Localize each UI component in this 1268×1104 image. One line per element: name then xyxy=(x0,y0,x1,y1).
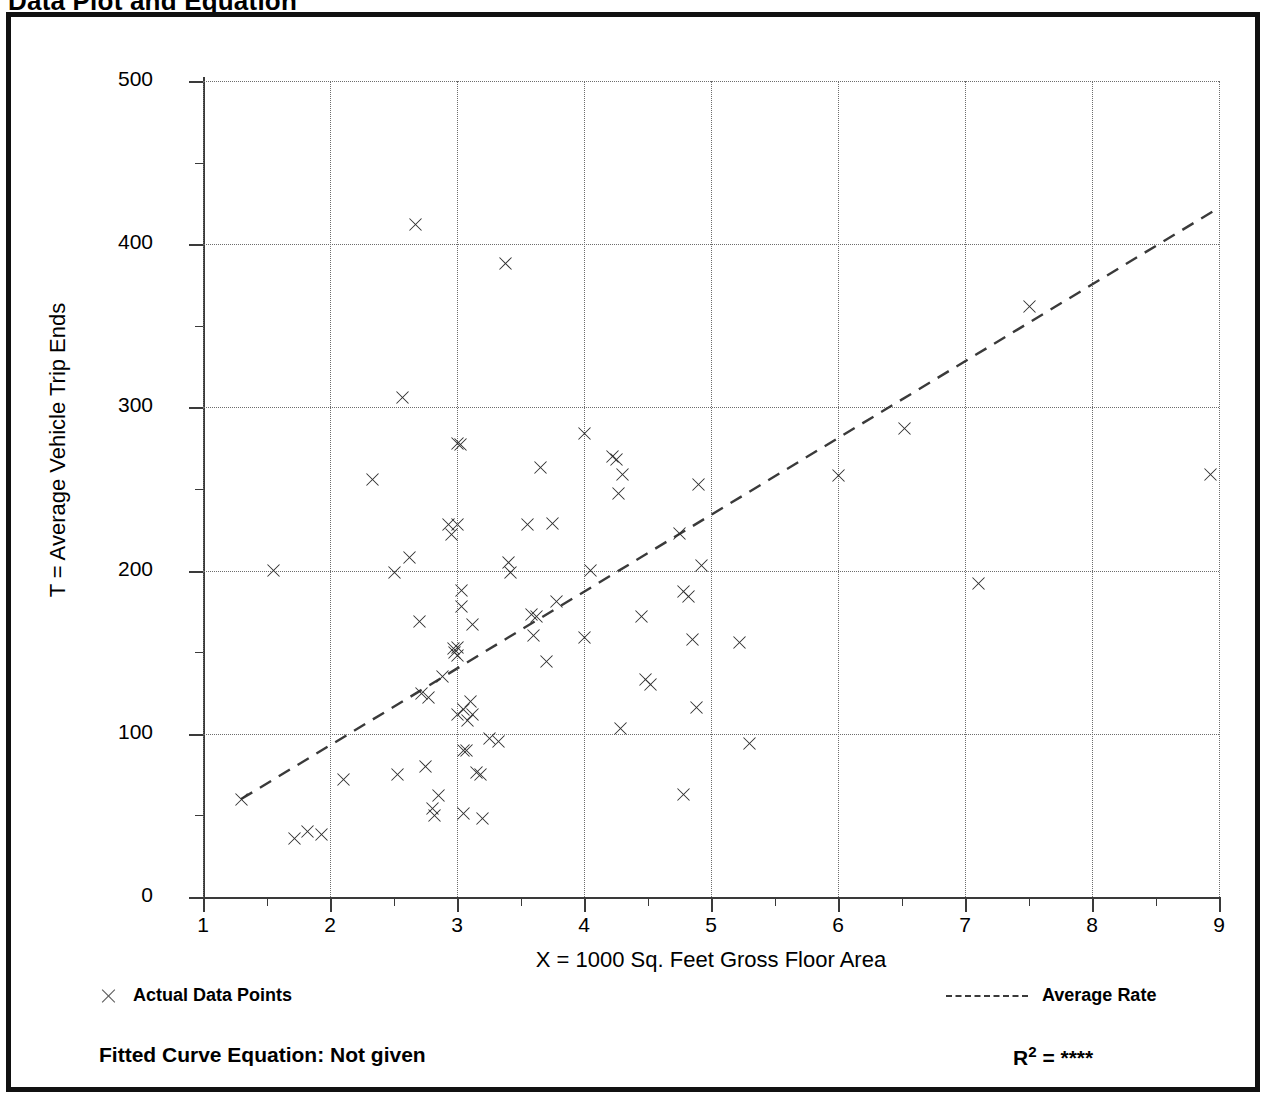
x-axis-tick-label: 6 xyxy=(832,913,844,937)
data-point xyxy=(610,485,627,502)
data-point xyxy=(1020,298,1037,315)
legend-label-average-rate: Average Rate xyxy=(1042,985,1156,1006)
data-point xyxy=(1202,466,1219,483)
data-point xyxy=(407,216,424,233)
x-axis-minor-tick xyxy=(775,897,776,906)
data-point xyxy=(690,476,707,493)
r-squared-exponent: 2 xyxy=(1028,1043,1036,1060)
y-axis-tick xyxy=(189,734,204,736)
data-point xyxy=(730,634,747,651)
figure-frame: 0100200300400500123456789 T = Average Ve… xyxy=(6,12,1260,1092)
data-point xyxy=(969,575,986,592)
data-point xyxy=(455,805,472,822)
data-point xyxy=(518,516,535,533)
data-point xyxy=(410,613,427,630)
gridline-vertical xyxy=(1092,81,1093,897)
data-point xyxy=(385,564,402,581)
data-point xyxy=(544,515,561,532)
y-axis-tick xyxy=(189,897,204,899)
r-squared-value: R2 = **** xyxy=(1013,1043,1093,1070)
data-point xyxy=(576,629,593,646)
gridline-vertical xyxy=(330,81,331,897)
x-axis-tick-label: 5 xyxy=(705,913,717,937)
x-axis-minor-tick xyxy=(1029,897,1030,906)
gridline-vertical xyxy=(1219,81,1220,897)
data-point xyxy=(741,735,758,752)
y-axis-tick-label: 200 xyxy=(118,557,153,581)
y-axis-tick xyxy=(189,571,204,573)
data-point xyxy=(614,466,631,483)
data-point xyxy=(464,706,481,723)
y-axis-tick-label: 400 xyxy=(118,230,153,254)
data-point xyxy=(426,807,443,824)
x-axis-tick xyxy=(838,897,840,912)
x-axis-tick xyxy=(1092,897,1094,912)
x-axis-tick-label: 8 xyxy=(1086,913,1098,937)
x-axis-minor-tick xyxy=(902,897,903,906)
equation-row: Fitted Curve Equation: Not given R2 = **… xyxy=(11,1043,1265,1083)
data-point xyxy=(233,791,250,808)
data-point xyxy=(582,562,599,579)
dashed-line-icon xyxy=(946,995,1028,997)
legend-row: Actual Data Points Average Rate xyxy=(11,985,1265,1025)
data-point xyxy=(537,653,554,670)
gridline-vertical xyxy=(711,81,712,897)
gridline-horizontal xyxy=(203,407,1219,408)
data-point xyxy=(675,786,692,803)
r-squared-prefix: R xyxy=(1013,1046,1028,1069)
x-axis-minor-tick xyxy=(1156,897,1157,906)
plot-area xyxy=(203,81,1219,897)
data-point xyxy=(830,467,847,484)
x-axis-tick-label: 9 xyxy=(1213,913,1225,937)
gridline-vertical xyxy=(965,81,966,897)
fitted-curve-equation: Fitted Curve Equation: Not given xyxy=(99,1043,426,1067)
data-point xyxy=(451,436,468,453)
data-point xyxy=(457,742,474,759)
data-point xyxy=(548,593,565,610)
gridline-horizontal xyxy=(203,571,1219,572)
data-point xyxy=(497,255,514,272)
average-rate-trend-line xyxy=(203,81,1219,897)
legend-entry-actual-data-points: Actual Data Points xyxy=(99,985,292,1006)
y-axis-tick-label: 100 xyxy=(118,720,153,744)
data-point xyxy=(525,627,542,644)
legend-label-actual-data-points: Actual Data Points xyxy=(133,985,292,1006)
gridline-vertical xyxy=(457,81,458,897)
r-squared-stars: **** xyxy=(1061,1046,1094,1069)
data-point xyxy=(363,471,380,488)
data-point xyxy=(471,766,488,783)
x-axis-tick-label: 3 xyxy=(451,913,463,937)
data-point xyxy=(642,676,659,693)
data-point xyxy=(671,525,688,542)
data-point xyxy=(896,420,913,437)
data-point xyxy=(389,766,406,783)
data-point xyxy=(452,598,469,615)
x-axis-tick-label: 7 xyxy=(959,913,971,937)
y-axis-tick xyxy=(189,81,204,83)
x-axis-tick xyxy=(711,897,713,912)
data-point xyxy=(334,771,351,788)
x-axis-tick xyxy=(1219,897,1221,912)
x-axis-minor-tick xyxy=(648,897,649,906)
data-point xyxy=(464,616,481,633)
data-point xyxy=(527,608,544,625)
data-point xyxy=(633,608,650,625)
x-axis-minor-tick xyxy=(394,897,395,906)
y-axis-tick xyxy=(189,407,204,409)
data-point xyxy=(449,647,466,664)
x-axis-tick xyxy=(457,897,459,912)
x-axis-tick xyxy=(965,897,967,912)
data-point xyxy=(489,733,506,750)
r-squared-equals: = xyxy=(1037,1046,1061,1069)
data-point xyxy=(687,699,704,716)
data-point xyxy=(394,389,411,406)
x-axis-minor-tick xyxy=(267,897,268,906)
y-axis-tick-label: 300 xyxy=(118,393,153,417)
data-point xyxy=(452,582,469,599)
gridline-horizontal xyxy=(203,81,1219,82)
data-point xyxy=(474,810,491,827)
x-axis-tick-label: 4 xyxy=(578,913,590,937)
data-point xyxy=(264,562,281,579)
x-axis-tick xyxy=(203,897,205,912)
gridline-vertical xyxy=(584,81,585,897)
